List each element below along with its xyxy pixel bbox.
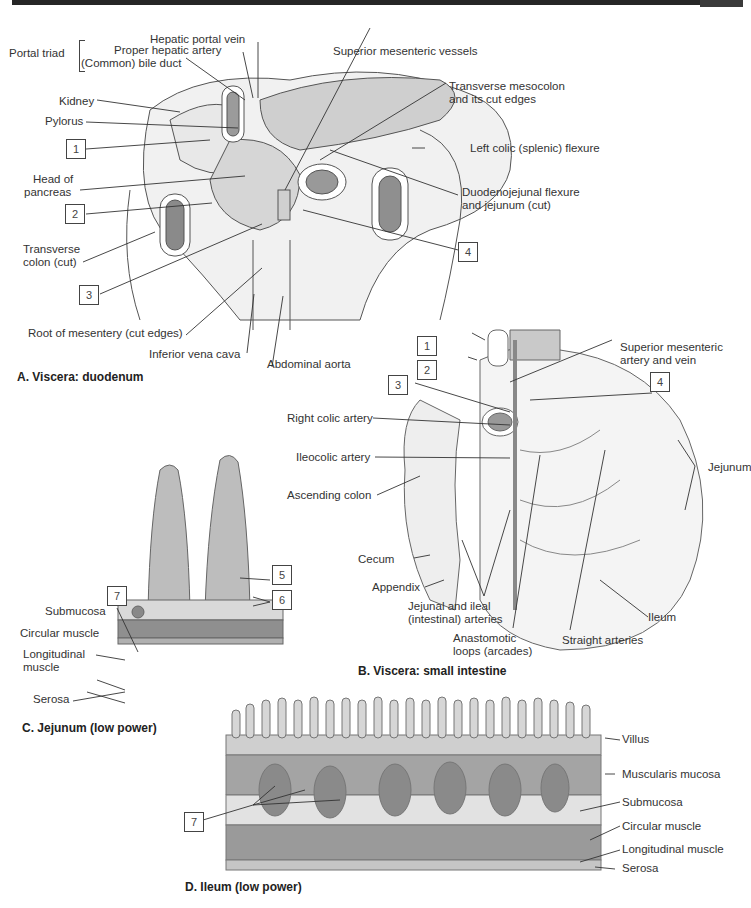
panel-c-illustration [118,455,283,644]
kidney-label: Kidney [59,95,94,108]
ileum-label: Ileum [648,611,676,624]
inferior-vena-cava-label: Inferior vena cava [149,348,240,361]
ileum-serosa-label: Serosa [622,862,658,875]
head-of-pancreas-label-1: Head of [33,173,73,186]
answer-box-a3[interactable]: 3 [79,285,99,305]
answer-box-c5[interactable]: 5 [272,565,292,585]
appendix-label: Appendix [372,581,420,594]
anastomotic-loops-label-1: Anastomotic [453,632,516,645]
jejunum-serosa-label: Serosa [33,693,69,706]
panel-b-caption: B. Viscera: small intestine [358,664,507,678]
ascending-colon-label: Ascending colon [287,489,371,502]
answer-box-a2[interactable]: 2 [65,204,85,224]
jejunum-submucosa-label: Submucosa [45,605,106,618]
answer-box-b3[interactable]: 3 [388,375,408,395]
jejunum-longitudinal-label-2: muscle [23,661,59,674]
common-bile-duct-label: (Common) bile duct [81,57,181,70]
transverse-mesocolon-label-2: and its cut edges [449,93,536,106]
panel-a-illustration [127,72,512,330]
head-of-pancreas-label-2: pancreas [24,186,71,199]
panel-c-caption: C. Jejunum (low power) [22,721,157,735]
portal-triad-label: Portal triad [9,47,65,60]
transverse-colon-label-2: colon (cut) [23,256,77,269]
answer-box-d7[interactable]: 7 [184,812,204,832]
answer-box-a4[interactable]: 4 [458,242,478,262]
ileum-circular-muscle-label: Circular muscle [622,820,701,833]
transverse-mesocolon-label-1: Transverse mesocolon [449,80,565,93]
sma-label-2: artery and vein [620,354,696,367]
duodenojejunal-label-1: Duodenojejunal flexure [462,186,580,199]
right-colic-artery-label: Right colic artery [287,412,373,425]
sma-label-1: Superior mesenteric [620,341,723,354]
answer-box-a1[interactable]: 1 [66,139,86,159]
left-colic-flexure-label: Left colic (splenic) flexure [470,142,600,155]
proper-hepatic-artery-label: Proper hepatic artery [114,44,221,57]
cecum-label: Cecum [358,553,394,566]
jejunum-circular-muscle-label: Circular muscle [20,627,99,640]
straight-arteries-label: Straight arteries [562,634,643,647]
jejunal-ileal-arteries-label-1: Jejunal and ileal [408,600,490,613]
answer-box-c6[interactable]: 6 [272,590,292,610]
root-of-mesentery-label: Root of mesentery (cut edges) [28,327,183,340]
muscularis-mucosa-label: Muscularis mucosa [622,768,720,781]
pylorus-label: Pylorus [45,115,83,128]
jejunal-ileal-arteries-label-2: (intestinal) arteries [408,613,503,626]
answer-box-b1[interactable]: 1 [417,336,437,356]
panel-a-caption: A. Viscera: duodenum [17,370,143,384]
anastomotic-loops-label-2: loops (arcades) [453,645,532,658]
duodenojejunal-label-2: and jejunum (cut) [462,199,551,212]
ileum-longitudinal-muscle-label: Longitudinal muscle [622,843,724,856]
jejunum-longitudinal-label-1: Longitudinal [23,648,85,661]
villus-label: Villus [622,733,649,746]
ileocolic-artery-label: Ileocolic artery [296,451,370,464]
answer-box-b2[interactable]: 2 [417,360,437,380]
superior-mesenteric-vessels-label: Superior mesenteric vessels [333,45,477,58]
ileum-submucosa-label: Submucosa [622,796,683,809]
answer-box-c7[interactable]: 7 [107,586,127,606]
jejunum-label: Jejunum [708,461,751,474]
panel-d-illustration [226,697,601,870]
abdominal-aorta-label: Abdominal aorta [267,358,351,371]
transverse-colon-label-1: Transverse [23,243,80,256]
panel-d-caption: D. Ileum (low power) [185,880,302,894]
answer-box-b4[interactable]: 4 [650,372,670,392]
